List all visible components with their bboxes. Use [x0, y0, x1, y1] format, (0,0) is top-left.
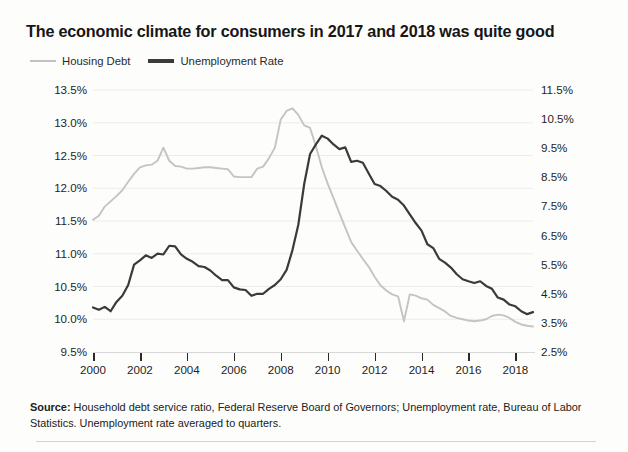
y-tick-label-right: 11.5% [541, 83, 597, 96]
y-tick-label-left: 11.5% [31, 214, 87, 227]
y-tick-label-right: 2.5% [541, 345, 597, 358]
x-tick-label: 2018 [502, 363, 528, 376]
x-axis-tick [515, 353, 517, 361]
x-tick-label: 2006 [221, 363, 247, 376]
y-tick-label-left: 13.5% [31, 83, 87, 96]
legend-swatch-unemployment-rate [148, 59, 174, 62]
x-tick-label: 2012 [362, 363, 388, 376]
legend-item-housing-debt[interactable]: Housing Debt [30, 55, 130, 67]
x-tick-label: 2016 [456, 363, 482, 376]
x-axis-tick [93, 353, 95, 361]
legend-item-unemployment-rate[interactable]: Unemployment Rate [148, 55, 283, 67]
y-tick-label-right: 8.5% [541, 170, 597, 183]
x-tick-label: 2000 [80, 363, 106, 376]
x-tick-label: 2008 [268, 363, 294, 376]
source-text: Household debt service ratio, Federal Re… [30, 401, 581, 429]
x-tick-label: 2004 [174, 363, 200, 376]
y-tick-label-right: 10.5% [541, 112, 597, 125]
x-axis-tick [422, 353, 424, 361]
y-tick-label-right: 6.5% [541, 229, 597, 242]
page-title: The economic climate for consumers in 20… [26, 22, 606, 41]
legend-label-housing-debt: Housing Debt [62, 55, 130, 67]
y-tick-label-right: 9.5% [541, 141, 597, 154]
legend-label-unemployment-rate: Unemployment Rate [180, 55, 283, 67]
plot-area [93, 90, 533, 352]
x-axis-tick [468, 353, 470, 361]
source-prefix: Source: [30, 401, 71, 413]
y-tick-label-left: 12.0% [31, 181, 87, 194]
x-tick-label: 2014 [409, 363, 435, 376]
y-tick-label-left: 13.0% [31, 116, 87, 129]
source-note: Source: Household debt service ratio, Fe… [30, 400, 590, 431]
y-tick-label-left: 11.0% [31, 247, 87, 260]
gridlines [93, 90, 533, 319]
x-axis-tick [187, 353, 189, 361]
x-tick-label: 2010 [315, 363, 341, 376]
y-tick-label-left: 9.5% [31, 345, 87, 358]
y-tick-label-right: 3.5% [541, 316, 597, 329]
x-axis-tick [234, 353, 236, 361]
y-tick-label-right: 5.5% [541, 258, 597, 271]
y-tick-label-left: 10.0% [31, 312, 87, 325]
x-axis-tick [375, 353, 377, 361]
series-line-unemployment-rate [93, 136, 533, 314]
x-tick-label: 2002 [127, 363, 153, 376]
bottom-divider [36, 441, 596, 442]
chart-legend: Housing Debt Unemployment Rate [30, 55, 283, 67]
y-tick-label-left: 10.5% [31, 280, 87, 293]
y-tick-label-right: 7.5% [541, 199, 597, 212]
x-axis-tick [328, 353, 330, 361]
series-line-housing-debt [93, 108, 533, 326]
chart-page: The economic climate for consumers in 20… [0, 0, 628, 452]
y-tick-label-right: 4.5% [541, 287, 597, 300]
x-axis-tick [140, 353, 142, 361]
chart-canvas [93, 90, 533, 352]
y-tick-label-left: 12.5% [31, 149, 87, 162]
x-axis-tick [281, 353, 283, 361]
legend-swatch-housing-debt [30, 60, 56, 62]
